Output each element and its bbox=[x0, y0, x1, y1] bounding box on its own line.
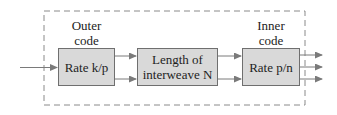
outer-code-label-line2: code bbox=[58, 33, 115, 48]
interleaver-block: Length of interweave N bbox=[137, 48, 218, 86]
inner-encoder-block: Rate p/n bbox=[242, 48, 300, 86]
inner-encoder-label: Rate p/n bbox=[249, 60, 293, 75]
interleaver-label-line2: interweave N bbox=[143, 67, 213, 82]
outer-encoder-block: Rate k/p bbox=[58, 48, 115, 86]
outer-code-label-line1: Outer bbox=[58, 18, 115, 33]
inner-code-label: Inner code bbox=[242, 18, 300, 48]
outer-code-label: Outer code bbox=[58, 18, 115, 48]
inner-code-label-line1: Inner bbox=[242, 18, 300, 33]
interleaver-label-line1: Length of bbox=[152, 52, 203, 67]
outer-encoder-label: Rate k/p bbox=[65, 60, 109, 75]
inner-code-label-line2: code bbox=[242, 33, 300, 48]
